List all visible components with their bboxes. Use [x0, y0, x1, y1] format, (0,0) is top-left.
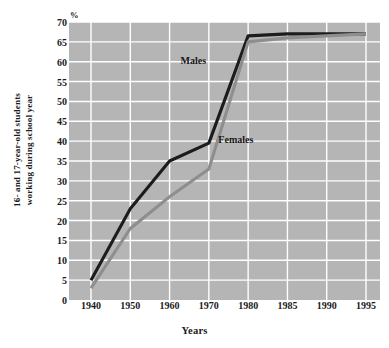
x-axis-tick-labels: 19401950196019701980198519901995 — [0, 300, 389, 316]
series-label-males: Males — [181, 55, 207, 66]
y-axis-title: 16- and 17-year-old students working dur… — [0, 0, 46, 300]
y-tick-label: 10 — [45, 255, 67, 266]
x-tick-label: 1950 — [120, 300, 140, 311]
y-tick-label: 35 — [45, 156, 67, 167]
y-axis-title-line-2: working during school year — [23, 93, 35, 207]
y-tick-label: 70 — [45, 17, 67, 28]
y-axis-unit: % — [70, 10, 79, 20]
y-tick-label: 40 — [45, 136, 67, 147]
chart-canvas — [69, 22, 380, 300]
y-tick-label: 5 — [45, 275, 67, 286]
y-tick-label: 60 — [45, 56, 67, 67]
y-tick-label: 25 — [45, 195, 67, 206]
y-axis-title-line-1: 16- and 17-year-old students — [12, 93, 22, 207]
y-axis-tick-labels: 0510152025303540455055606570 — [42, 0, 67, 348]
x-tick-label: 1990 — [317, 300, 337, 311]
chart-figure: 16- and 17-year-old students working dur… — [0, 0, 389, 348]
x-axis-title: Years — [0, 325, 389, 336]
x-tick-label: 1940 — [81, 300, 101, 311]
x-tick-label: 1995 — [356, 300, 376, 311]
x-tick-label: 1985 — [277, 300, 297, 311]
y-tick-label: 20 — [45, 215, 67, 226]
x-tick-label: 1980 — [238, 300, 258, 311]
y-tick-label: 55 — [45, 76, 67, 87]
y-tick-label: 30 — [45, 175, 67, 186]
y-tick-label: 45 — [45, 116, 67, 127]
series-label-females: Females — [218, 134, 253, 145]
plot-area: Males Females — [69, 22, 380, 300]
y-tick-label: 50 — [45, 96, 67, 107]
x-tick-label: 1960 — [160, 300, 180, 311]
y-tick-label: 65 — [45, 36, 67, 47]
x-tick-label: 1970 — [199, 300, 219, 311]
y-tick-label: 15 — [45, 235, 67, 246]
